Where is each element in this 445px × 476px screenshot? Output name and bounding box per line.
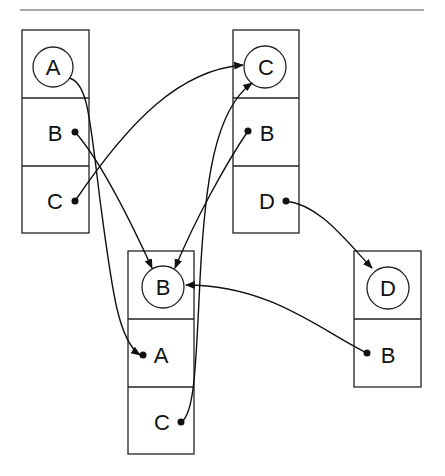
node-b-field-label: A bbox=[154, 343, 169, 368]
edge-c-field-b-to-b bbox=[175, 131, 248, 268]
edge-d-field-b-to-b bbox=[186, 285, 367, 353]
node-a: A B C bbox=[22, 30, 89, 233]
node-c-field-label: D bbox=[259, 189, 275, 214]
edge-a-to-b-field-a bbox=[69, 78, 140, 355]
pointer-diagram: A B C C B D B A C D B bbox=[0, 0, 445, 476]
node-a-field-label: C bbox=[47, 189, 63, 214]
node-b-field-label: C bbox=[154, 410, 170, 435]
node-a-field-label: B bbox=[48, 121, 63, 146]
node-d-head-label: D bbox=[380, 276, 396, 301]
node-d: D B bbox=[354, 251, 421, 387]
node-c-field-label: B bbox=[260, 121, 275, 146]
edge-a-field-b-to-b bbox=[75, 132, 152, 268]
edge-b-field-c-to-c bbox=[181, 83, 252, 422]
node-a-head-label: A bbox=[46, 55, 61, 80]
node-b-head-label: B bbox=[156, 275, 171, 300]
pointer-dot bbox=[140, 352, 147, 359]
edges bbox=[69, 65, 372, 426]
node-d-field-label: B bbox=[381, 343, 396, 368]
node-c-head-label: C bbox=[258, 55, 274, 80]
